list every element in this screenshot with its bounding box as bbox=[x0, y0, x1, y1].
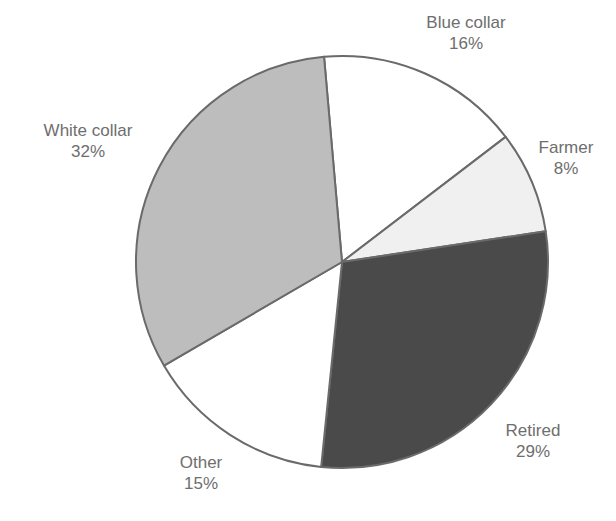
label-white-collar: White collar32% bbox=[44, 120, 133, 162]
label-farmer: Farmer8% bbox=[539, 137, 594, 179]
label-retired: Retired29% bbox=[506, 420, 561, 462]
label-blue-collar: Blue collar16% bbox=[426, 12, 505, 54]
label-other: Other15% bbox=[180, 452, 223, 494]
